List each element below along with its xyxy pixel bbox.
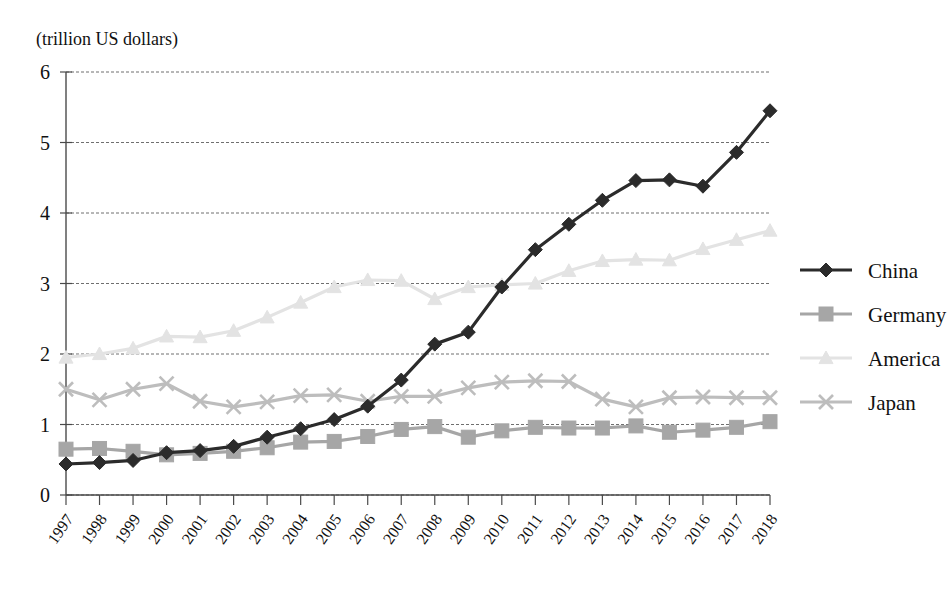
x-tick-label: 2006	[346, 511, 378, 547]
x-tick-label: 1997	[44, 511, 76, 547]
x-tick-label: 2008	[413, 511, 445, 547]
square-marker	[763, 415, 777, 429]
diamond-marker	[294, 422, 308, 436]
chart-legend: ChinaGermanyAmericaJapan	[800, 259, 947, 415]
diamond-marker	[662, 173, 676, 187]
square-marker	[696, 423, 710, 437]
x-tick-label: 2014	[614, 511, 646, 547]
square-marker	[595, 421, 609, 435]
x-tick-label: 2016	[681, 511, 713, 547]
y-tick-label: 0	[40, 484, 50, 506]
y-tick-label: 5	[40, 132, 50, 154]
diamond-marker	[59, 457, 73, 471]
y-tick-labels: 0123456	[40, 61, 50, 506]
square-marker	[327, 434, 341, 448]
square-marker	[562, 421, 576, 435]
diamond-marker	[93, 456, 107, 470]
chart-page: (trillion US dollars) 0123456 1997199819…	[0, 0, 951, 599]
x-tick-label: 2010	[480, 511, 512, 547]
x-tick-label: 2018	[748, 511, 780, 547]
diamond-marker	[327, 413, 341, 427]
series-japan	[59, 374, 777, 414]
y-tick-label: 4	[40, 202, 50, 224]
x-tick-label: 2015	[648, 511, 680, 547]
x-tick-label: 2011	[514, 511, 546, 546]
diamond-marker	[819, 263, 833, 277]
legend-item-label: Germany	[868, 303, 947, 327]
x-tick-label: 2007	[379, 511, 411, 547]
square-marker	[629, 419, 643, 433]
series-china	[59, 104, 777, 471]
x-tick-label: 2004	[279, 511, 311, 547]
square-marker	[461, 430, 475, 444]
square-marker	[662, 425, 676, 439]
square-marker	[361, 429, 375, 443]
x-tick-label: 2000	[145, 511, 177, 547]
legend-item-label: Japan	[868, 391, 916, 415]
x-tick-label: 1998	[78, 511, 110, 547]
square-marker	[528, 420, 542, 434]
x-tick-label: 1999	[111, 511, 143, 547]
legend-item-japan[interactable]: Japan	[800, 391, 916, 415]
square-marker	[294, 435, 308, 449]
square-marker	[729, 420, 743, 434]
y-tick-label: 2	[40, 343, 50, 365]
x-tick-label: 2001	[178, 511, 210, 547]
series-group	[59, 104, 777, 471]
x-tick-label: 2002	[212, 511, 244, 547]
y-tick-label: 1	[40, 414, 50, 436]
diamond-marker	[629, 174, 643, 188]
series-america	[59, 224, 777, 364]
square-marker	[394, 422, 408, 436]
x-tick-label: 2005	[312, 511, 344, 547]
y-tick-label: 6	[40, 61, 50, 83]
x-tick-labels: 1997199819992000200120022003200420052006…	[44, 511, 780, 547]
x-tick-label: 2012	[547, 511, 579, 547]
legend-item-label: China	[868, 259, 919, 283]
legend-item-america[interactable]: America	[800, 347, 941, 371]
square-marker	[495, 424, 509, 438]
x-tick-label: 2013	[581, 511, 613, 547]
x-tick-label: 2017	[715, 511, 747, 547]
x-tick-label: 2009	[446, 511, 478, 547]
line-chart: 0123456 19971998199920002001200220032004…	[0, 0, 951, 599]
square-marker	[428, 420, 442, 434]
legend-item-label: America	[868, 347, 941, 371]
legend-item-china[interactable]: China	[800, 259, 919, 283]
legend-item-germany[interactable]: Germany	[800, 303, 947, 327]
series-line	[66, 111, 770, 464]
triangle-marker	[763, 224, 777, 237]
y-tick-label: 3	[40, 273, 50, 295]
square-marker	[93, 441, 107, 455]
x-tick-label: 2003	[245, 511, 277, 547]
square-marker	[59, 442, 73, 456]
square-marker	[819, 307, 833, 321]
